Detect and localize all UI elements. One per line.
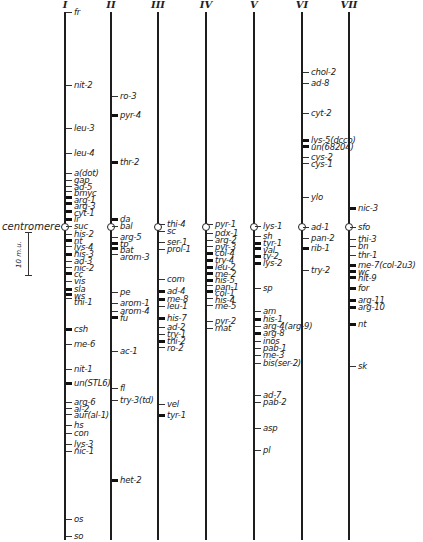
gene-tick <box>66 444 72 445</box>
gene-tick <box>255 332 261 335</box>
gene-label: aur(al-1) <box>74 411 109 420</box>
gene-tick <box>159 249 165 250</box>
gene-label: lys-2 <box>263 259 282 268</box>
gene-tick <box>350 299 356 302</box>
gene-tick <box>66 85 72 86</box>
gene-tick <box>350 270 356 273</box>
gene-tick <box>66 272 72 275</box>
gene-tick <box>207 290 213 293</box>
gene-tick <box>303 139 309 142</box>
gene-tick <box>66 196 72 199</box>
centromere-marker <box>61 223 69 231</box>
gene-label: fu <box>120 314 128 323</box>
gene-tick <box>66 519 72 520</box>
gene-label: me-6 <box>74 340 95 349</box>
gene-tick <box>66 298 72 299</box>
gene-tick <box>112 161 118 164</box>
chromosome-title-V: V <box>250 0 258 10</box>
gene-tick <box>159 279 165 280</box>
gene-label: leu-1 <box>167 302 187 311</box>
gene-tick <box>112 226 118 227</box>
gene-tick <box>66 344 72 345</box>
gene-tick <box>159 242 165 243</box>
gene-label: ro-3 <box>120 92 136 101</box>
gene-tick <box>303 113 309 114</box>
gene-tick <box>207 246 213 247</box>
gene-tick <box>112 247 118 250</box>
gene-tick <box>303 238 309 239</box>
gene-tick <box>112 388 118 389</box>
gene-tick <box>159 231 165 232</box>
chromosome-title-VII: VII <box>340 0 357 10</box>
gene-tick <box>350 264 356 267</box>
gene-tick <box>112 242 118 245</box>
gene-label: bal <box>120 222 132 231</box>
gene-tick <box>112 351 118 352</box>
gene-label: arg-10 <box>358 303 385 312</box>
gene-label: sc <box>167 227 176 236</box>
gene-tick <box>255 318 261 321</box>
gene-tick <box>303 163 309 164</box>
gene-label: sfo <box>358 223 370 232</box>
gene-tick <box>255 402 261 403</box>
gene-tick <box>66 414 72 415</box>
gene-label: pan-2 <box>311 234 334 243</box>
gene-tick <box>255 242 261 245</box>
gene-tick <box>255 428 261 429</box>
chromosome-title-VI: VI <box>296 0 308 10</box>
gene-label: chol-2 <box>311 68 336 77</box>
gene-label: bis(ser-2) <box>263 359 301 368</box>
gene-tick <box>255 450 261 451</box>
gene-label: fr <box>74 8 80 17</box>
centromere-marker <box>250 223 258 231</box>
gene-label: ro-2 <box>167 344 183 353</box>
gene-tick <box>207 259 213 262</box>
scale-bar <box>28 232 29 275</box>
gene-label: sp <box>263 284 272 293</box>
gene-label: for <box>358 284 369 293</box>
gene-tick <box>255 348 261 349</box>
gene-tick <box>66 408 72 409</box>
gene-tick <box>255 247 261 250</box>
gene-tick <box>303 197 309 198</box>
gene-tick <box>159 317 165 320</box>
gene-tick <box>112 303 118 304</box>
scale-bar-top-cap <box>25 232 32 233</box>
gene-tick <box>350 323 356 326</box>
gene-label: com <box>167 275 185 284</box>
gene-label: try-2 <box>311 266 330 275</box>
gene-tick <box>255 395 261 396</box>
gene-label: tyr-1 <box>167 411 186 420</box>
gene-tick <box>66 261 72 262</box>
chromosome-title-IV: IV <box>200 0 212 10</box>
gene-tick <box>350 276 356 279</box>
gene-tick <box>66 191 72 192</box>
gene-tick <box>66 186 72 187</box>
gene-tick <box>350 239 356 240</box>
linkage-map: Ifrnit-2leu-3leu-4a(dot)gapad-5bmycarg-1… <box>0 0 423 542</box>
gene-label: ac-1 <box>120 347 138 356</box>
gene-tick <box>66 281 72 282</box>
gene-tick <box>66 267 72 268</box>
gene-tick <box>66 369 72 370</box>
gene-tick <box>66 253 72 256</box>
gene-tick <box>350 246 356 247</box>
gene-tick <box>207 328 213 329</box>
chromosome-line-V <box>253 12 255 540</box>
gene-label: thr-1 <box>358 251 377 260</box>
gene-tick <box>66 173 72 174</box>
gene-label: un(STL6) <box>74 379 111 388</box>
gene-tick <box>303 157 309 158</box>
gene-label: ad-8 <box>311 79 329 88</box>
gene-label: ylo <box>311 193 323 202</box>
gene-tick <box>66 425 72 426</box>
gene-label: pl <box>263 446 270 455</box>
chromosome-line-III <box>157 12 159 540</box>
gene-tick <box>112 218 118 221</box>
gene-label: rib-1 <box>311 244 330 253</box>
gene-tick <box>66 218 72 221</box>
gene-tick <box>207 285 213 286</box>
gene-tick <box>66 239 72 242</box>
chromosome-line-II <box>110 12 112 540</box>
gene-tick <box>303 270 309 271</box>
